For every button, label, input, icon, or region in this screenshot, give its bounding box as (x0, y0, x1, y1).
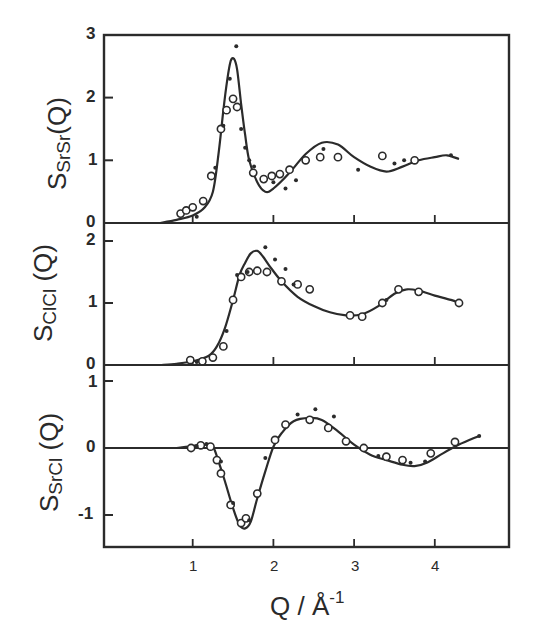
open-circle-point (302, 157, 309, 164)
xtick-3: 3 (351, 557, 359, 574)
open-circle-point (342, 438, 349, 445)
filled-dot-point (204, 442, 208, 446)
figure-canvas (0, 0, 535, 643)
ytick-top-0: 0 (86, 212, 95, 232)
open-circle-point (383, 453, 390, 460)
filled-dot-point (247, 518, 251, 522)
open-circle-point (278, 278, 285, 285)
filled-dot-point (409, 461, 413, 465)
filled-dot-point (246, 270, 250, 274)
open-circle-point (187, 356, 194, 363)
xaxis-label-exponent: -1 (329, 588, 344, 607)
open-circle-point (229, 95, 236, 102)
ylabel-srsr-tail: (Q) (42, 97, 72, 135)
open-circle-point (254, 490, 261, 497)
filled-dot-point (195, 444, 199, 448)
xtick-1: 1 (189, 557, 197, 574)
filled-dot-point (263, 456, 267, 460)
ytick-top-3: 3 (86, 24, 95, 44)
filled-dot-point (219, 459, 223, 463)
open-circle-point (260, 176, 267, 183)
open-circle-point (223, 107, 230, 114)
ylabel-clcl-tail: (Q) (28, 244, 58, 289)
open-circle-point (233, 103, 240, 110)
filled-dot-point (313, 407, 317, 411)
open-circle-point (187, 444, 194, 451)
open-circle-point (411, 157, 418, 164)
open-circle-point (415, 288, 422, 295)
open-circle-point (360, 444, 367, 451)
filled-dot-point (392, 161, 396, 165)
filled-dot-point (376, 454, 380, 458)
filled-dot-point (243, 146, 247, 150)
xaxis-label: Q / Å-1 (270, 588, 344, 622)
open-circle-point (263, 268, 270, 275)
filled-dot-point (296, 413, 300, 417)
filled-dot-point (235, 273, 239, 277)
filled-dot-point (273, 258, 277, 262)
open-circle-point (334, 154, 341, 161)
ylabel-clcl-sub: ClCl (39, 289, 60, 325)
ylabel-srcl-sub: SrCl (45, 458, 66, 495)
ytick-mid-1: 1 (88, 292, 97, 312)
ytick-bot-1: 1 (88, 372, 97, 392)
open-circle-point (189, 204, 196, 211)
xaxis-label-main: Q / Å (270, 591, 329, 621)
filled-dot-point (221, 124, 225, 128)
ylabel-srcl: SSrCl (Q) (34, 413, 67, 512)
filled-dot-point (231, 501, 235, 505)
open-circle-point (200, 197, 207, 204)
filled-dot-point (225, 329, 229, 333)
filled-dot-point (292, 282, 296, 286)
open-circle-point (325, 424, 332, 431)
open-circle-point (286, 166, 293, 173)
open-circle-point (282, 421, 289, 428)
filled-dot-point (477, 434, 481, 438)
ytick-mid-2: 2 (86, 230, 95, 250)
ylabel-srcl-tail: (Q) (34, 413, 64, 458)
ytick-bot-neg1: -1 (78, 504, 93, 524)
filled-dot-point (294, 178, 298, 182)
open-circle-point (395, 286, 402, 293)
filled-dot-point (247, 158, 251, 162)
open-circle-point (229, 296, 236, 303)
filled-dot-point (402, 158, 406, 162)
open-circle-point (306, 416, 313, 423)
open-circle-point (254, 267, 261, 274)
ytick-bot-0: 0 (86, 437, 95, 457)
open-circle-point (379, 152, 386, 159)
filled-dot-point (252, 165, 256, 169)
ylabel-clcl-main: S (28, 325, 58, 342)
open-circle-point (208, 172, 215, 179)
xtick-4: 4 (431, 557, 439, 574)
model-curve (160, 251, 459, 365)
open-circle-point (346, 312, 353, 319)
panel-middle (104, 241, 463, 365)
filled-dot-point (356, 168, 360, 172)
filled-dot-point (423, 459, 427, 463)
open-circle-point (306, 286, 313, 293)
panel-bottom (104, 381, 509, 547)
open-circle-point (268, 172, 275, 179)
filled-dot-point (239, 127, 243, 131)
filled-dot-point (332, 415, 336, 419)
ytick-mid-0: 0 (86, 354, 95, 374)
filled-dot-point (263, 245, 267, 249)
plot-content (104, 44, 509, 547)
filled-dot-point (271, 180, 275, 184)
open-circle-point (317, 154, 324, 161)
open-circle-point (359, 313, 366, 320)
filled-dot-point (321, 147, 325, 151)
filled-dot-point (228, 77, 232, 81)
open-circle-point (217, 470, 224, 477)
open-circle-point (209, 354, 216, 361)
open-circle-point (427, 450, 434, 457)
filled-dot-point (234, 44, 238, 48)
open-circle-point (220, 343, 227, 350)
filled-dot-point (195, 215, 199, 219)
open-circle-point (250, 169, 257, 176)
ylabel-srcl-main: S (34, 495, 64, 512)
ylabel-srsr-sub: SrSr (53, 135, 74, 173)
open-circle-point (271, 436, 278, 443)
open-circle-point (399, 456, 406, 463)
